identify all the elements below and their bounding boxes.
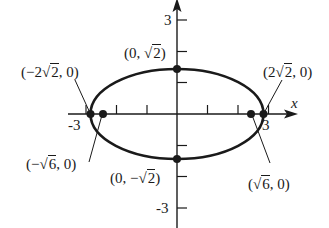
- right-focus-point: [247, 110, 255, 118]
- ellipse-graph-svg: [0, 0, 329, 228]
- top-point: [173, 65, 181, 73]
- right-vertex-label: (2√2, 0): [263, 64, 312, 80]
- left-focus-label: (−√6, 0): [26, 156, 76, 172]
- x-tick-label-neg3: -3: [68, 117, 81, 133]
- left-vertex-label: (−2√2, 0): [21, 64, 79, 80]
- ellipse-diagram: x -3 3 3 -3 (−2√2, 0) (0, √2) (2√2, 0) (…: [0, 0, 329, 228]
- leader-lines: [75, 80, 282, 163]
- bottom-point-label: (0, −√2): [110, 170, 160, 186]
- x-axis-label: x: [291, 95, 298, 111]
- left-focus-point: [99, 110, 107, 118]
- y-tick-label-neg3: -3: [156, 200, 169, 216]
- top-point-label: (0, √2): [124, 45, 166, 61]
- x-tick-label-3: 3: [262, 117, 270, 133]
- y-tick-label-3: 3: [164, 12, 172, 28]
- right-focus-label: (√6, 0): [248, 176, 290, 192]
- bottom-point: [173, 155, 181, 163]
- left-vertex-point: [87, 110, 95, 118]
